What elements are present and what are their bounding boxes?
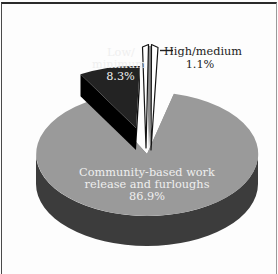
pie-chart-svg: Low/ minimum 8.3% High/medium 1.1% Commu… (0, 0, 278, 274)
low-minimum-percentage: 8.3% (106, 70, 135, 83)
community-percentage: 86.9% (129, 190, 165, 203)
high-medium-percentage: 1.1% (186, 58, 215, 71)
high-medium-label: High/medium (164, 45, 242, 58)
figure-canvas: Low/ minimum 8.3% High/medium 1.1% Commu… (0, 0, 278, 274)
